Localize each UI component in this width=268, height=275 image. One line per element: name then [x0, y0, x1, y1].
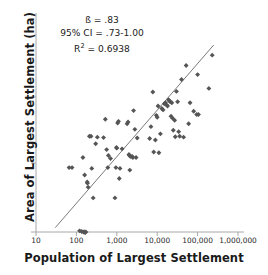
data-point-marker [134, 155, 139, 160]
data-point-marker [206, 86, 211, 91]
data-point-marker [132, 127, 137, 132]
data-point-marker [135, 136, 140, 141]
x-tick-label: 1,000 [106, 236, 127, 245]
data-point-marker [89, 166, 94, 171]
data-point-marker [173, 134, 178, 139]
data-point-marker [95, 135, 100, 140]
data-point-marker [191, 109, 196, 114]
data-point-marker [117, 176, 122, 181]
data-point-marker [101, 135, 106, 140]
data-point-marker [118, 166, 123, 171]
data-point-marker [148, 124, 153, 129]
data-point-marker [179, 77, 184, 82]
data-point-marker [70, 165, 75, 170]
r-squared-annotation: R2 = 0.6938 [44, 40, 160, 56]
regression-line [55, 45, 213, 228]
data-point-marker [158, 131, 163, 136]
x-axis-title: Population of Largest Settlement [0, 251, 268, 265]
data-point-marker [210, 53, 215, 58]
data-point-marker [120, 146, 125, 151]
data-point-marker [113, 165, 118, 170]
r-squared-value: = 0.6938 [85, 44, 130, 54]
x-tick-label: 10,000 [144, 236, 170, 245]
x-tick-label: 1,000,000 [219, 236, 257, 245]
data-point-marker [93, 141, 98, 146]
data-points [67, 53, 215, 235]
x-tick-label: 100 [69, 236, 83, 245]
beta-annotation: ß = .83 [44, 14, 160, 27]
x-tick-label: 100,000 [182, 236, 213, 245]
data-point-marker [150, 90, 155, 95]
data-point-marker [177, 134, 182, 139]
data-point-marker [153, 138, 158, 143]
data-point-marker [104, 147, 109, 152]
statistics-annotation: ß = .83 95% CI = .73-1.00 R2 = 0.6938 [44, 14, 160, 57]
y-axis-title: Area of Largest Settlement (ha) [23, 2, 37, 232]
data-point-marker [113, 195, 118, 200]
scatter-plot-figure: ß = .83 95% CI = .73-1.00 R2 = 0.6938 Po… [0, 0, 268, 275]
data-point-marker [151, 149, 156, 154]
data-point-marker [176, 129, 181, 134]
data-point-marker [186, 121, 191, 126]
data-point-marker [188, 100, 193, 105]
data-point-marker [91, 195, 96, 200]
confidence-interval-annotation: 95% CI = .73-1.00 [44, 27, 160, 40]
data-point-marker [82, 173, 87, 178]
data-point-marker [195, 72, 200, 77]
data-point-marker [80, 155, 85, 160]
regression-line-path [55, 45, 213, 228]
data-point-marker [86, 185, 91, 190]
data-point-marker [171, 128, 176, 133]
data-point-marker [156, 150, 161, 155]
data-point-marker [147, 136, 152, 141]
data-point-marker [127, 168, 132, 173]
data-point-marker [175, 99, 180, 104]
data-point-marker [103, 117, 108, 122]
x-tick-label: 10 [31, 236, 40, 245]
data-point-marker [131, 108, 136, 113]
data-point-marker [184, 63, 189, 68]
data-point-marker [181, 135, 186, 140]
